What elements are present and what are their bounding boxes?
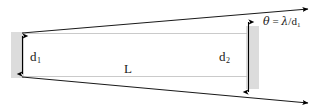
theta-symbol: θ <box>263 15 270 28</box>
equals-sign: = <box>270 15 282 27</box>
far-aperture-label-base: d <box>219 49 226 64</box>
divergence-angle-label: θ = λ/d1 <box>263 16 300 29</box>
near-aperture-label: d1 <box>30 50 41 65</box>
far-aperture-label: d2 <box>219 50 230 65</box>
lower-ray <box>22 77 308 103</box>
denominator-subscript: 1 <box>297 21 301 29</box>
far-aperture-label-subscript: 2 <box>226 56 230 65</box>
near-aperture-label-base: d <box>30 49 37 64</box>
beam-divergence-figure: d1 d2 L θ = λ/d1 <box>0 0 317 112</box>
near-aperture-label-subscript: 1 <box>37 56 41 65</box>
distance-label: L <box>124 62 132 75</box>
